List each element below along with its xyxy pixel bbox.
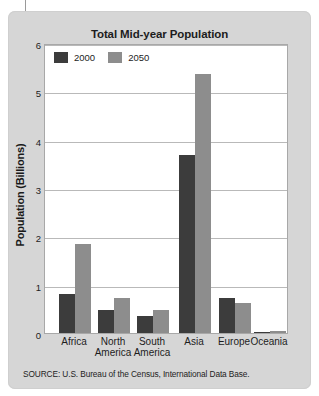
legend-label: 2000 [74,52,95,63]
bar-group [137,45,169,333]
legend-swatch-2050 [108,52,122,63]
bar-group [59,45,91,333]
chart-legend: 20002050 [54,52,149,63]
bar[interactable] [59,294,75,333]
chart-card: Total Mid-year Population Population (Bi… [8,11,311,389]
bar[interactable] [254,332,270,333]
legend-swatch-2000 [54,52,68,63]
chart-title: Total Mid-year Population [8,28,311,40]
bar-group [219,45,251,333]
bar[interactable] [270,331,286,333]
bar[interactable] [235,303,251,333]
bars-layer [45,45,287,333]
bar-group [254,45,286,333]
bar[interactable] [195,74,211,333]
bar[interactable] [75,244,91,333]
bar[interactable] [98,310,114,333]
plot-area: 0123456 20002050 [44,44,288,334]
bar[interactable] [179,155,195,333]
y-tick-label: 5 [36,88,41,99]
bar-group [179,45,211,333]
x-tick-label: Oceania [243,336,295,347]
y-tick-label: 6 [36,40,41,51]
x-axis-tick-labels: AfricaNorthAmericaSouthAmericaAsiaEurope… [44,336,288,366]
y-tick-label: 2 [36,233,41,244]
y-tick-label: 0 [36,330,41,341]
y-tick-label: 3 [36,185,41,196]
y-axis-title: Population (Billions) [14,120,26,270]
legend-label: 2050 [128,52,149,63]
source-note: SOURCE: U.S. Bureau of the Census, Inter… [23,369,250,379]
bar-group [98,45,130,333]
y-tick-label: 1 [36,281,41,292]
legend-item[interactable]: 2050 [108,52,149,63]
bar[interactable] [153,310,169,333]
bar[interactable] [114,298,130,333]
bar[interactable] [137,316,153,333]
y-tick-label: 4 [36,136,41,147]
legend-item[interactable]: 2000 [54,52,95,63]
bar[interactable] [219,298,235,333]
